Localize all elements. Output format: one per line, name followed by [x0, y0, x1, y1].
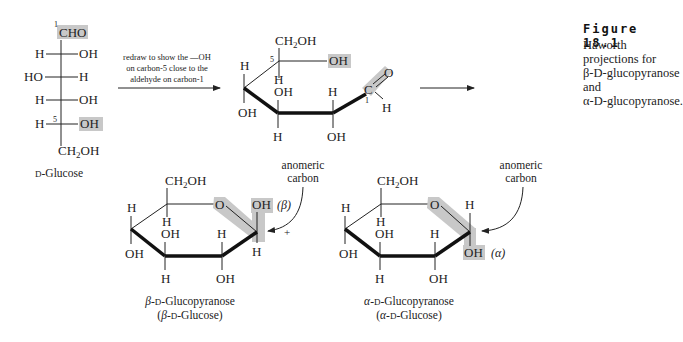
oc-c4-oh: OH — [238, 105, 257, 120]
beta-anomer-tag: (β) — [277, 198, 291, 212]
alpha-name-alt: (α-D-Glucose) — [376, 309, 442, 322]
oc-c3-oh: OH — [274, 84, 293, 99]
fischer-name: D-Glucose — [35, 167, 83, 179]
alpha-anomeric-arrow — [482, 187, 523, 231]
beta-c1-oh: OH — [252, 197, 271, 212]
alpha-ring-o: O — [430, 197, 439, 212]
beta-c1-h: H — [252, 244, 261, 259]
oc-c1: C — [364, 82, 373, 97]
beta-glucopyranose: CH2OH O OH (β) H H OH H OH H H OH anomer… — [125, 159, 324, 322]
row4-right: OH — [80, 116, 99, 131]
beta-anomeric-label-1: anomeric — [282, 159, 325, 171]
row1-right: OH — [79, 46, 98, 61]
alpha-c3-h: H — [375, 271, 384, 286]
row2-left: HO — [24, 69, 43, 84]
alpha-anomeric-label-1: anomeric — [500, 159, 543, 171]
arrow-note-line1: redraw to show the —OH — [123, 52, 211, 62]
alpha-glucopyranose: CH2OH O H OH (α) H OH H OH H H OH anomer… — [339, 159, 542, 322]
beta-ch2oh: CH2OH — [165, 173, 206, 190]
row2-right: H — [79, 69, 88, 84]
oc-c2-h: H — [328, 84, 337, 99]
alpha-c2-h: H — [430, 226, 439, 241]
arrow-note-line2: on carbon-5 close to the — [126, 63, 208, 73]
fischer-projection: 1 CHO H OH HO H H OH 5 H OH CH2OH D-Gluc… — [24, 20, 103, 179]
alpha-c4-oh: OH — [339, 246, 358, 261]
row4-left: H — [35, 116, 44, 131]
cho-label: CHO — [59, 25, 86, 40]
row1-left: H — [35, 46, 44, 61]
beta-ring-o: O — [215, 197, 224, 212]
beta-c3-oh: OH — [161, 226, 180, 241]
alpha-c3-oh: OH — [375, 226, 394, 241]
oc-c5-number: 5 — [270, 55, 274, 64]
oc-ch2oh: CH2OH — [275, 33, 316, 50]
carbon1-number: 1 — [54, 20, 58, 29]
caption-line-3: α-D-glucopyranose. — [583, 94, 683, 108]
beta-c4-oh: OH — [125, 246, 144, 261]
beta-c2-oh: OH — [216, 271, 235, 286]
alpha-c1-h: H — [465, 197, 474, 212]
ch2oh-label: CH2OH — [58, 143, 99, 160]
carbon5-number: 5 — [53, 115, 57, 124]
alpha-anomeric-label-2: carbon — [505, 172, 537, 184]
oc-c3-h: H — [273, 129, 282, 144]
figure-caption: Haworth projections for β-D-glucopyranos… — [583, 38, 683, 108]
arrow-note-line3: aldehyde on carbon-1 — [130, 74, 204, 84]
caption-line-1: Haworth projections for — [583, 38, 683, 66]
beta-name: β-D-Glucopyranose — [144, 295, 235, 308]
open-chain-haworth: CH2OH 5 OH H H OH OH H H OH C O 1 H — [238, 33, 393, 144]
redraw-arrow: redraw to show the —OH on carbon-5 close… — [118, 52, 220, 88]
oc-c1-h: H — [382, 100, 391, 115]
row3-left: H — [35, 92, 44, 107]
caption-line-2: β-D-glucopyranose and — [583, 66, 683, 94]
beta-c5-h: H — [127, 200, 136, 215]
alpha-c2-oh: OH — [429, 271, 448, 286]
alpha-c5-h: H — [341, 200, 350, 215]
beta-c2-h: H — [217, 226, 226, 241]
beta-anomeric-label-2: carbon — [287, 172, 319, 184]
beta-name-alt: (β-D-Glucose) — [157, 309, 222, 322]
row3-right: OH — [79, 92, 98, 107]
beta-c3-h: H — [161, 271, 170, 286]
plus-sign: + — [284, 226, 290, 238]
oc-c1-number: 1 — [365, 96, 369, 105]
alpha-c1-oh: OH — [464, 245, 483, 260]
alpha-anomer-tag: (α) — [491, 246, 505, 260]
oc-c4-h: H — [240, 58, 249, 73]
oc-c5-oh: OH — [329, 53, 348, 68]
alpha-ch2oh: CH2OH — [377, 173, 418, 190]
oc-c2-oh: OH — [327, 129, 346, 144]
oc-c1-o: O — [384, 65, 393, 80]
alpha-name: α-D-Glucopyranose — [364, 295, 454, 308]
